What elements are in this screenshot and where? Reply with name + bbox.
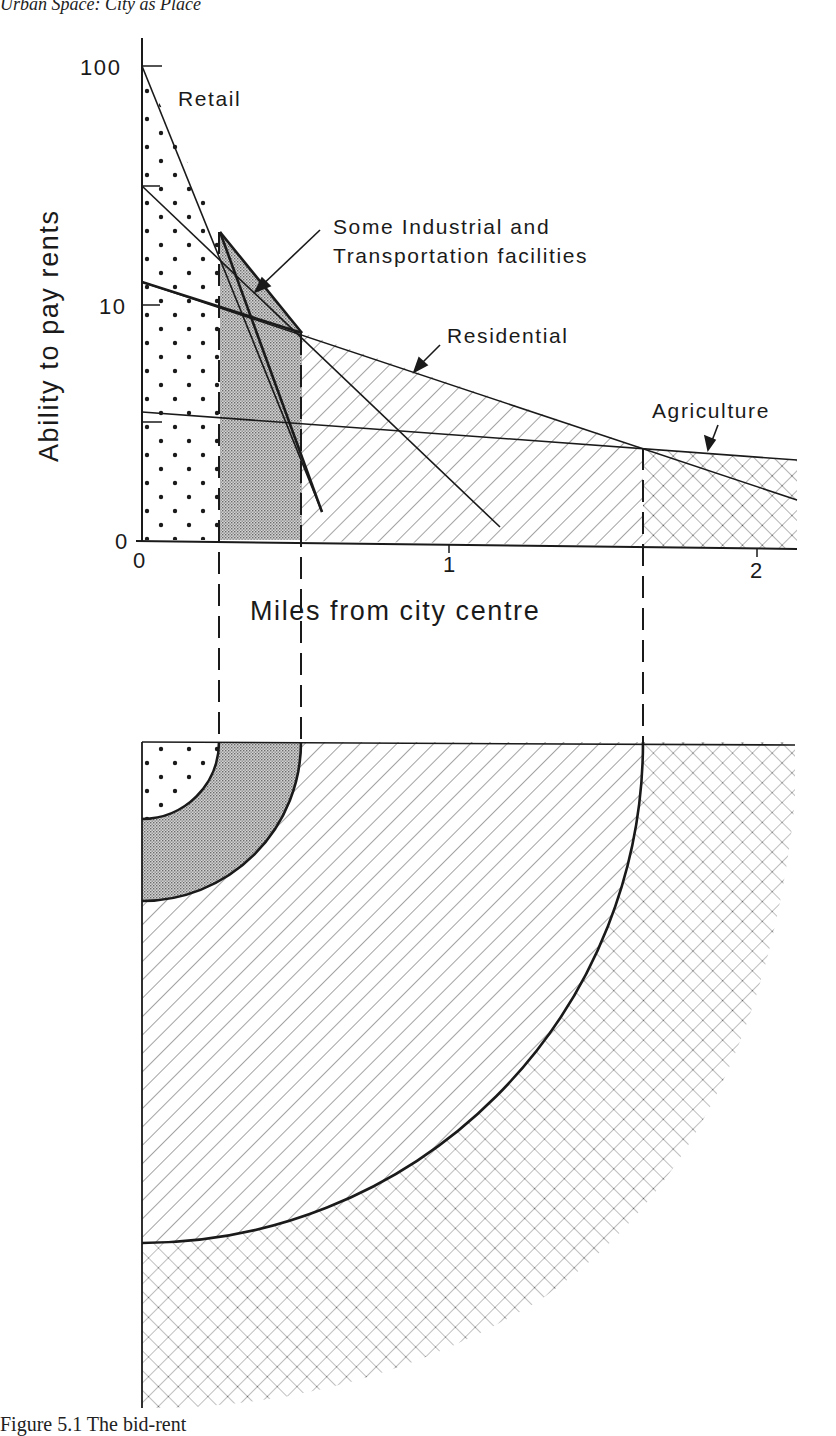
bid-rent-figure: Retail Some Industrial and Transportatio… (0, 0, 836, 1436)
y-tick-100-label: 100 (80, 55, 122, 80)
concentric-zones-map (142, 742, 795, 1408)
residential-label: Residential (447, 324, 569, 347)
industrial-label-line2: Transportation facilities (333, 244, 588, 267)
x-tick-1-label: 1 (443, 552, 457, 577)
x-tick-0-label: 0 (133, 548, 147, 573)
industrial-label-arrow (255, 230, 320, 292)
industrial-label-line1: Some Industrial and (333, 215, 550, 238)
agriculture-zone-fill (643, 448, 797, 549)
y-tick-0-label: 0 (115, 529, 129, 554)
industrial-zone-fill (220, 232, 302, 540)
agriculture-label: Agriculture (652, 399, 770, 422)
y-tick-10-label: 10 (99, 294, 127, 319)
x-axis-title: Miles from city centre (250, 596, 540, 626)
figure-caption: Figure 5.1 The bid-rent (0, 1413, 186, 1436)
y-axis-title: Ability to pay rents (34, 209, 64, 462)
agriculture-label-arrow (705, 425, 718, 450)
x-tick-2-label: 2 (750, 558, 764, 583)
residential-zone-fill (302, 333, 643, 546)
residential-label-arrow (414, 345, 440, 372)
bid-rent-chart: Retail Some Industrial and Transportatio… (34, 38, 797, 742)
retail-label: Retail (178, 87, 241, 110)
